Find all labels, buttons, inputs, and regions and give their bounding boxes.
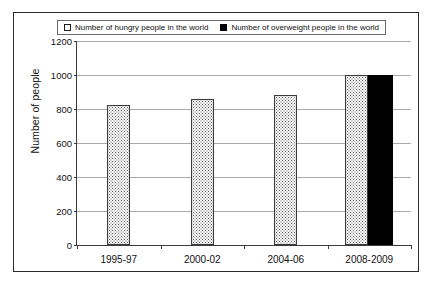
bar[interactable]: [274, 95, 297, 245]
y-tick-label-1200: 1200: [51, 36, 72, 47]
chart-legend: Number of hungry people in the world Num…: [57, 20, 386, 35]
y-tick-label-800: 800: [56, 104, 72, 115]
x-tick-mark: [161, 245, 162, 249]
legend-label-overweight: Number of overweight people in the world: [231, 23, 379, 33]
legend-entry-hungry: Number of hungry people in the world: [64, 23, 208, 33]
bar-group: [244, 41, 328, 245]
x-tick-label: 2008-2009: [345, 254, 393, 265]
x-tick-label: 2004-06: [267, 254, 304, 265]
bar-series-container: [77, 41, 411, 245]
x-tick-mark: [411, 245, 412, 249]
bar[interactable]: [368, 75, 393, 245]
bar-group: [328, 41, 412, 245]
hollow-square-icon: [64, 24, 71, 31]
bar-group: [77, 41, 161, 245]
x-tick-mark: [77, 245, 78, 249]
y-tick-label-0: 0: [67, 240, 72, 251]
bar[interactable]: [107, 105, 130, 245]
y-tick-label-400: 400: [56, 172, 72, 183]
y-tick-label-200: 200: [56, 206, 72, 217]
x-tick-label: 2000-02: [184, 254, 221, 265]
bar[interactable]: [345, 75, 368, 245]
plot-area: 020040060080010001200 1995-972000-022004…: [76, 41, 411, 246]
legend-entry-overweight: Number of overweight people in the world: [220, 23, 379, 33]
legend-label-hungry: Number of hungry people in the world: [75, 23, 208, 33]
bar-group: [161, 41, 245, 245]
y-tick-label-1000: 1000: [51, 70, 72, 81]
filled-square-icon: [220, 24, 227, 31]
x-tick-label: 1995-97: [100, 254, 137, 265]
x-tick-mark: [244, 245, 245, 249]
y-axis-title: Number of people: [29, 46, 41, 176]
bar[interactable]: [191, 99, 214, 245]
x-tick-mark: [328, 245, 329, 249]
y-tick-label-600: 600: [56, 138, 72, 149]
chart-frame: Number of hungry people in the world Num…: [13, 12, 419, 272]
